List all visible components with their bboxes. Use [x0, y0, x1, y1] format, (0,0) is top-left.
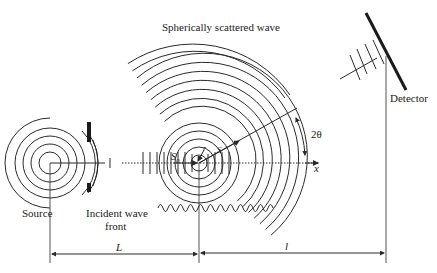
r-label: r: [203, 143, 206, 155]
diagram-canvas: [0, 0, 437, 273]
s-label: S: [217, 144, 222, 156]
s0-label: S0: [171, 151, 180, 167]
scattered-waves: [128, 44, 307, 235]
incident-wave-front-label-2: front: [105, 220, 126, 232]
scattered-wave-label: Spherically scattered wave: [162, 21, 280, 33]
detector-waves: [340, 40, 384, 80]
aperture-top: [87, 122, 91, 142]
incident-wave-front-label-1: Incident wave: [86, 207, 148, 219]
source-label: Source: [22, 207, 53, 219]
distance-l-label: l: [285, 240, 288, 252]
aperture-bottom: [87, 183, 91, 192]
angle-arc: [296, 118, 305, 155]
distance-L-label: L: [116, 241, 122, 253]
x-axis-label: x: [314, 162, 319, 174]
angle-label: 2θ: [311, 128, 322, 140]
detector-label: Detector: [390, 92, 428, 104]
